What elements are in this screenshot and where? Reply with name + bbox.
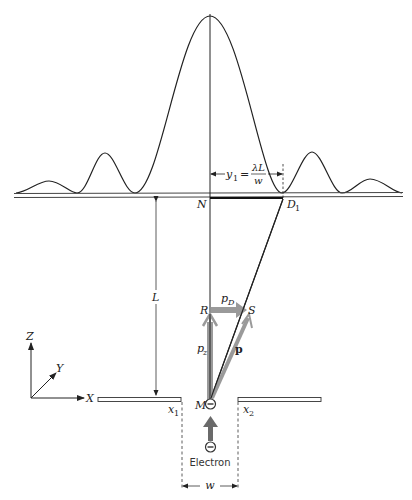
electron-at-slit [206, 399, 216, 409]
svg-text:1: 1 [295, 204, 300, 213]
right-slit-barrier [238, 398, 321, 402]
y-axis [31, 373, 56, 398]
label-l: L [151, 291, 159, 304]
screen-line-top [14, 193, 403, 194]
label-electron: Electron [189, 457, 230, 468]
diffraction-intensity-curve [16, 16, 402, 193]
svg-text:1: 1 [233, 174, 238, 183]
electron-incoming-arrow [203, 416, 218, 441]
label-s: S [248, 304, 256, 317]
axis-label-z: Z [25, 330, 34, 343]
electron-incoming [206, 442, 216, 452]
screen-line-bottom [14, 197, 403, 198]
svg-text:λL: λL [251, 162, 265, 173]
diffraction-diagram: y 1 = λL w N D 1 L R S p D [0, 0, 412, 500]
svg-text:1: 1 [174, 409, 179, 418]
axis-label-y: Y [56, 362, 65, 375]
svg-text:y: y [225, 168, 233, 181]
svg-text:D: D [227, 298, 235, 307]
label-p: p [235, 343, 243, 356]
label-m: M [194, 399, 207, 412]
coordinate-axes: Z Y X [25, 330, 95, 405]
svg-text:=: = [240, 168, 249, 181]
left-slit-barrier [98, 398, 181, 402]
label-x1: x 1 [168, 403, 179, 418]
svg-text:p: p [221, 292, 228, 305]
axis-label-x: X [85, 392, 95, 405]
label-pd: p D [221, 292, 235, 307]
label-d1: D 1 [286, 198, 300, 213]
label-r: R [199, 304, 208, 317]
svg-text:z: z [202, 348, 208, 357]
label-pz: p z [197, 342, 208, 357]
label-x2: x 2 [243, 403, 254, 418]
label-w: w [205, 479, 215, 492]
y1-equation: y 1 = λL w [225, 162, 266, 186]
label-n: N [196, 198, 207, 211]
svg-text:w: w [254, 175, 263, 186]
svg-text:2: 2 [249, 409, 254, 418]
